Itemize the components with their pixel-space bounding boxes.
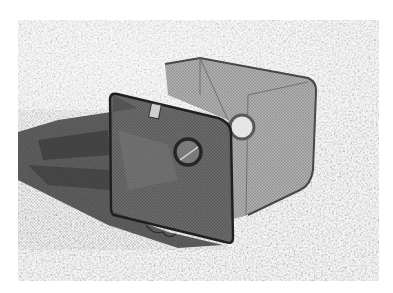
photo-canvas [18,20,379,281]
trap-photo [18,20,379,281]
front-entrance-ring [175,139,201,165]
trap-clip [149,103,162,119]
back-entrance-ring [230,115,254,139]
